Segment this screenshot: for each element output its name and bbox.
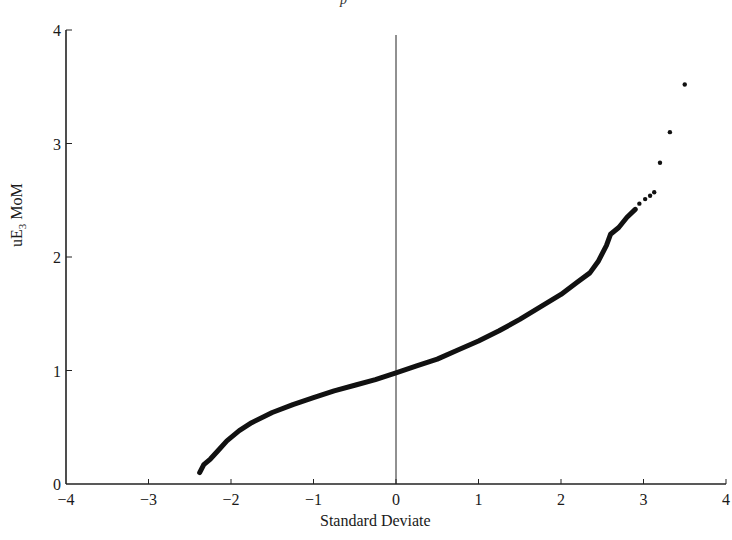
x-tick-label: −2 — [222, 491, 239, 508]
data-point — [683, 82, 687, 86]
x-axis-label: Standard Deviate — [320, 512, 431, 530]
y-tick-label: 0 — [53, 476, 61, 493]
x-tick-label: 2 — [557, 491, 565, 508]
x-tick-label: 4 — [722, 491, 730, 508]
data-point — [668, 130, 672, 134]
y-tick-label: 4 — [53, 22, 61, 39]
x-tick-label: 0 — [392, 491, 400, 508]
data-point — [643, 197, 647, 201]
y-axis-label: uE3 MoM — [8, 175, 28, 255]
data-curve — [200, 209, 636, 472]
tick-marks: −4−3−2−10123401234 — [53, 22, 730, 508]
data-point — [637, 201, 641, 205]
y-tick-label: 1 — [53, 363, 61, 380]
x-tick-label: −1 — [305, 491, 322, 508]
x-tick-label: 1 — [475, 491, 483, 508]
y-tick-label: 2 — [53, 249, 61, 266]
data-point — [652, 190, 656, 194]
x-tick-label: 3 — [640, 491, 648, 508]
data-point — [648, 194, 652, 198]
x-tick-label: −4 — [57, 491, 74, 508]
y-tick-label: 3 — [53, 136, 61, 153]
qq-plot: −4−3−2−10123401234 — [0, 0, 732, 540]
data-point — [658, 161, 662, 165]
x-tick-label: −3 — [140, 491, 157, 508]
data-series — [200, 82, 687, 472]
